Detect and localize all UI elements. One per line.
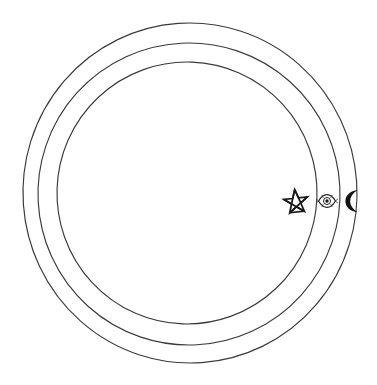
concentric-circles-figure [0,0,377,385]
middle-ring [30,35,347,352]
pentagram-star-icon [283,188,309,213]
outer-ring [12,12,369,374]
crescent-moon-icon [345,190,357,212]
figure-canvas: Three nested circles drawn by hand, with… [0,0,377,385]
inner-ring [53,58,322,329]
eye-icon [316,195,337,208]
